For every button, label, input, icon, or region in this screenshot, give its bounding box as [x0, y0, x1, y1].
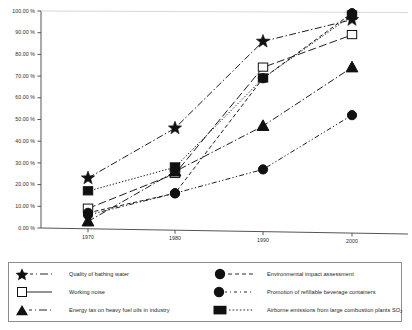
legend-item-airborne-emissions[interactable]: Airborne emissions from large combustion…	[211, 302, 402, 318]
legend-label: Promotion of refillable beverage contain…	[267, 289, 376, 295]
y-tick-label: 70.00 %	[0, 73, 35, 79]
y-tick-label: 80.00 %	[0, 51, 35, 57]
legend-item-working-noise[interactable]: Working noise	[13, 284, 105, 300]
chart-legend: Quality of bathing water Working noise	[8, 262, 402, 322]
series-4	[83, 111, 356, 220]
y-tick-label: 90.00 %	[0, 29, 35, 35]
circle-marker-icon	[211, 285, 267, 299]
series-5	[83, 11, 356, 195]
y-tick-label: 20.00 %	[0, 181, 35, 187]
star-marker-icon	[13, 267, 69, 281]
y-tick-label: 40.00 %	[0, 138, 35, 144]
legend-item-quality-of-bathing-water[interactable]: Quality of bathing water	[13, 266, 129, 282]
filled-square-marker-icon	[211, 303, 267, 317]
legend-label: Energy tax on heavy fuel oils in industr…	[69, 307, 170, 313]
x-tick-label: 2000	[332, 238, 372, 244]
x-tick-label: 1990	[243, 237, 283, 243]
subscript-2: 2	[400, 309, 402, 314]
y-tick-label: 0.00 %	[0, 225, 35, 231]
y-tick-label: 50.00 %	[0, 116, 35, 122]
legend-label: Working noise	[69, 289, 105, 295]
circle-marker-icon	[211, 267, 267, 281]
series-0	[81, 13, 358, 184]
series-2	[82, 61, 358, 226]
triangle-marker-icon	[13, 303, 69, 317]
series-3	[83, 9, 356, 218]
legend-label: Quality of bathing water	[69, 271, 129, 277]
legend-item-environmental-impact-assessment[interactable]: Environmental impact assessment	[211, 266, 354, 282]
y-tick-label: 30.00 %	[0, 160, 35, 166]
y-tick-label: 100.00 %	[0, 8, 35, 14]
y-tick-label: 60.00 %	[0, 94, 35, 100]
plot-area: 0.00 %10.00 %20.00 %30.00 %40.00 %50.00 …	[0, 0, 412, 252]
legend-item-promotion-refillable-containers[interactable]: Promotion of refillable beverage contain…	[211, 284, 376, 300]
y-tick-label: 10.00 %	[0, 203, 35, 209]
legend-label: Environmental impact assessment	[267, 271, 354, 277]
x-tick-label: 1980	[155, 235, 195, 241]
chart-svg	[0, 0, 412, 252]
legend-label: Airborne emissions from large combustion…	[267, 307, 402, 313]
legend-item-energy-tax[interactable]: Energy tax on heavy fuel oils in industr…	[13, 302, 170, 318]
open-square-marker-icon	[13, 285, 69, 299]
x-tick-label: 1970	[68, 234, 108, 240]
legend-column-right: Environmental impact assessment Promotio…	[211, 263, 403, 321]
legend-column-left: Quality of bathing water Working noise	[13, 263, 209, 321]
chart-page: 0.00 %10.00 %20.00 %30.00 %40.00 %50.00 …	[0, 0, 412, 330]
